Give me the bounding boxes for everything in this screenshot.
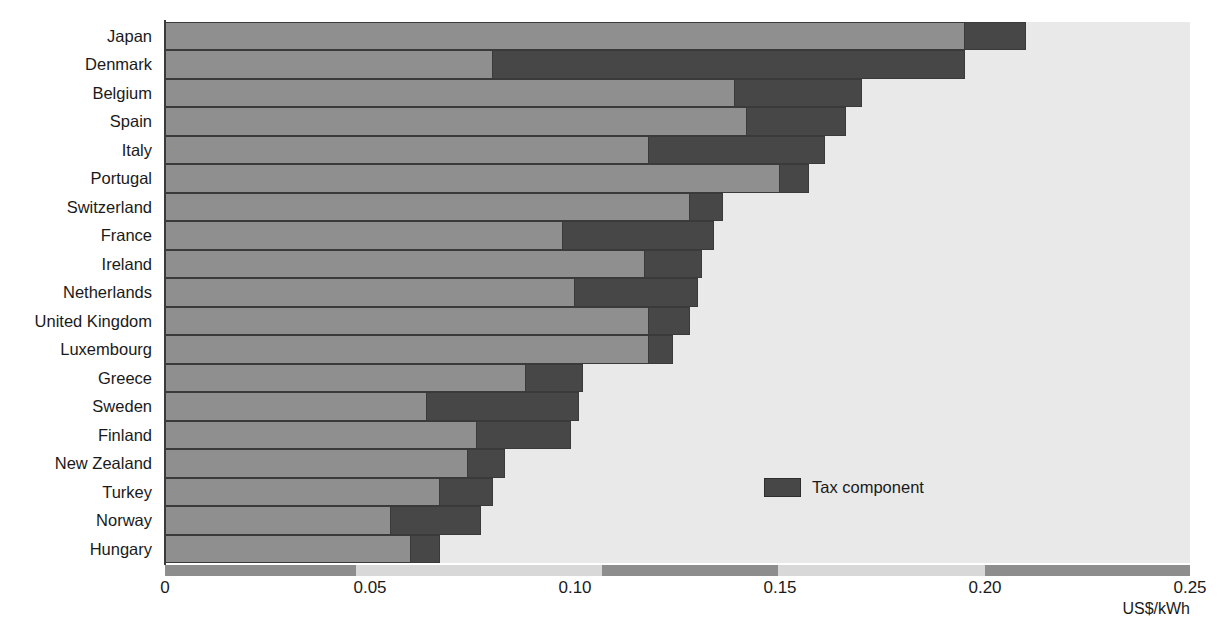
category-label: Italy bbox=[0, 136, 152, 164]
bar-row bbox=[165, 164, 809, 192]
bar-row bbox=[165, 506, 481, 534]
category-label: New Zealand bbox=[0, 449, 152, 477]
category-label: Sweden bbox=[0, 392, 152, 420]
bar-segment-price-excluding-tax bbox=[165, 421, 477, 449]
bar-segment-tax-component bbox=[426, 392, 579, 420]
x-tick-label: 0 bbox=[160, 578, 169, 598]
bar-row bbox=[165, 250, 702, 278]
bar-segment-tax-component bbox=[492, 50, 965, 78]
bar-segment-price-excluding-tax bbox=[165, 250, 645, 278]
category-label: Luxembourg bbox=[0, 335, 152, 363]
bar-row bbox=[165, 107, 846, 135]
category-label: United Kingdom bbox=[0, 307, 152, 335]
bar-segment-price-excluding-tax bbox=[165, 221, 563, 249]
bar-segment-tax-component bbox=[562, 221, 715, 249]
bar-row bbox=[165, 22, 1026, 50]
bar-segment-price-excluding-tax bbox=[165, 278, 575, 306]
category-label: Ireland bbox=[0, 250, 152, 278]
category-label: Greece bbox=[0, 364, 152, 392]
bar-row bbox=[165, 421, 571, 449]
bar-segment-price-excluding-tax bbox=[165, 335, 649, 363]
axis-band-segment bbox=[602, 565, 778, 576]
bar-row bbox=[165, 449, 505, 477]
bar-segment-tax-component bbox=[644, 250, 702, 278]
bar-segment-tax-component bbox=[390, 506, 481, 534]
bar-segment-price-excluding-tax bbox=[165, 392, 427, 420]
bar-segment-tax-component bbox=[779, 164, 809, 192]
x-axis-band bbox=[165, 565, 1190, 576]
bar-segment-price-excluding-tax bbox=[165, 50, 493, 78]
bar-segment-tax-component bbox=[410, 535, 440, 563]
bar-segment-tax-component bbox=[648, 335, 674, 363]
x-tick-label: 0.20 bbox=[968, 578, 1001, 598]
x-tick-label: 0.05 bbox=[353, 578, 386, 598]
bar-segment-price-excluding-tax bbox=[165, 364, 526, 392]
bar-row bbox=[165, 50, 965, 78]
bar-row bbox=[165, 136, 825, 164]
bar-segment-tax-component bbox=[525, 364, 583, 392]
bar-segment-tax-component bbox=[648, 136, 825, 164]
x-tick-label: 0.10 bbox=[558, 578, 591, 598]
bar-segment-price-excluding-tax bbox=[165, 478, 440, 506]
bar-segment-price-excluding-tax bbox=[165, 535, 411, 563]
bar-row bbox=[165, 535, 440, 563]
category-label: Switzerland bbox=[0, 193, 152, 221]
bar-segment-price-excluding-tax bbox=[165, 193, 690, 221]
bar-row bbox=[165, 478, 493, 506]
bar-segment-tax-component bbox=[734, 79, 862, 107]
bar-segment-tax-component bbox=[648, 307, 690, 335]
x-tick-label: 0.15 bbox=[763, 578, 796, 598]
bar-segment-tax-component bbox=[574, 278, 698, 306]
bar-segment-price-excluding-tax bbox=[165, 506, 391, 534]
bar-segment-price-excluding-tax bbox=[165, 307, 649, 335]
bar-row bbox=[165, 307, 690, 335]
bar-row bbox=[165, 392, 579, 420]
legend-swatch-tax-component bbox=[764, 478, 801, 497]
bar-segment-tax-component bbox=[467, 449, 505, 477]
category-label: Netherlands bbox=[0, 278, 152, 306]
axis-band-segment bbox=[985, 565, 1190, 576]
bar-row bbox=[165, 79, 862, 107]
legend-label-tax-component: Tax component bbox=[812, 478, 924, 497]
bar-segment-tax-component bbox=[439, 478, 493, 506]
bar-row bbox=[165, 335, 673, 363]
category-label: Belgium bbox=[0, 79, 152, 107]
bar-segment-price-excluding-tax bbox=[165, 22, 965, 50]
bar-row bbox=[165, 193, 723, 221]
bar-row bbox=[165, 278, 698, 306]
category-label: Norway bbox=[0, 506, 152, 534]
bar-row bbox=[165, 221, 714, 249]
bar-segment-price-excluding-tax bbox=[165, 449, 468, 477]
bar-segment-price-excluding-tax bbox=[165, 136, 649, 164]
bar-segment-price-excluding-tax bbox=[165, 107, 747, 135]
category-label: Hungary bbox=[0, 535, 152, 563]
category-label: Japan bbox=[0, 22, 152, 50]
x-tick-label: 0.25 bbox=[1173, 578, 1206, 598]
bar-segment-tax-component bbox=[746, 107, 845, 135]
bar-segment-tax-component bbox=[689, 193, 723, 221]
legend: Tax component bbox=[764, 478, 924, 497]
axis-band-segment bbox=[165, 565, 356, 576]
bar-row bbox=[165, 364, 583, 392]
category-label: Finland bbox=[0, 421, 152, 449]
bar-segment-price-excluding-tax bbox=[165, 164, 780, 192]
bar-segment-tax-component bbox=[964, 22, 1027, 50]
category-label: Spain bbox=[0, 107, 152, 135]
category-label: France bbox=[0, 221, 152, 249]
bar-segment-tax-component bbox=[476, 421, 571, 449]
bar-segment-price-excluding-tax bbox=[165, 79, 735, 107]
category-label: Portugal bbox=[0, 164, 152, 192]
x-axis-title: US$/kWh bbox=[1122, 600, 1190, 618]
category-label: Denmark bbox=[0, 50, 152, 78]
energy-price-bar-chart: JapanDenmarkBelgiumSpainItalyPortugalSwi… bbox=[0, 0, 1220, 623]
category-label: Turkey bbox=[0, 478, 152, 506]
